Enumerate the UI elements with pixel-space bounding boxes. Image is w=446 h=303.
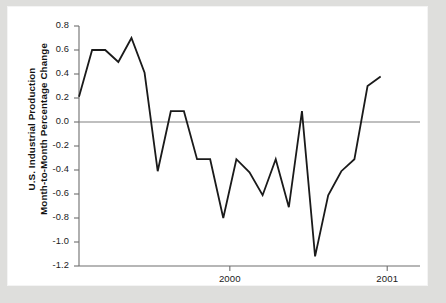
y-tick-label: 0.2: [41, 92, 69, 102]
x-axis-ticks: [230, 266, 387, 271]
y-tick-label: -1.0: [41, 236, 69, 246]
y-tick-label: -0.8: [41, 212, 69, 222]
chart-panel: U.S. Industrial Production Month-to-Mont…: [8, 7, 427, 285]
y-tick-label: 0.6: [41, 44, 69, 54]
y-tick-label: 0.4: [41, 68, 69, 78]
y-tick-label: 0.8: [41, 20, 69, 30]
x-tick-label: 2001: [363, 273, 411, 284]
y-tick-label: -0.4: [41, 164, 69, 174]
line-chart-plot: [8, 7, 427, 285]
y-tick-label: -0.2: [41, 140, 69, 150]
y-tick-label: -1.2: [41, 260, 69, 270]
y-tick-label: 0.0: [41, 116, 69, 126]
x-tick-label: 2000: [206, 273, 254, 284]
data-series-line: [79, 38, 381, 256]
axis-lines: [79, 26, 420, 266]
y-tick-label: -0.6: [41, 188, 69, 198]
chart-figure: U.S. Industrial Production Month-to-Mont…: [0, 0, 446, 303]
y-axis-ticks: [74, 26, 79, 266]
